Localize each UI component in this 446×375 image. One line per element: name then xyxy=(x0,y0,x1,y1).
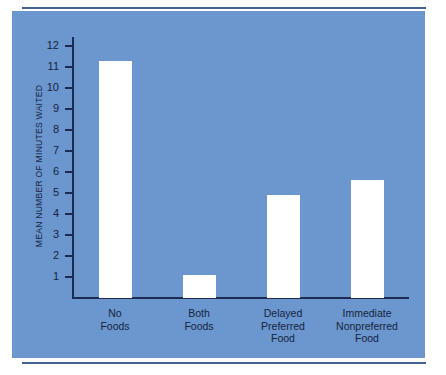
x-tick-label: Immediate Nonpreferred Food xyxy=(312,307,422,345)
y-tick-label: 12 xyxy=(29,40,59,51)
y-tick-label: 5 xyxy=(29,187,59,198)
top-rule xyxy=(22,7,426,9)
y-tick xyxy=(65,45,74,47)
y-tick-label: 3 xyxy=(29,229,59,240)
y-tick-label: 9 xyxy=(29,103,59,114)
chart-plate: MEAN NUMBER OF MINUTES WAITED 1211109876… xyxy=(12,11,425,358)
y-tick-label: 6 xyxy=(29,166,59,177)
y-tick xyxy=(65,276,74,278)
bar xyxy=(267,195,300,298)
y-tick xyxy=(65,234,74,236)
y-tick xyxy=(65,66,74,68)
bottom-rule xyxy=(22,362,426,364)
y-tick-label: 7 xyxy=(29,145,59,156)
y-tick xyxy=(65,87,74,89)
y-tick-label: 10 xyxy=(29,82,59,93)
bar xyxy=(183,275,216,298)
bar xyxy=(99,61,132,298)
y-tick-label: 8 xyxy=(29,124,59,135)
figure: MEAN NUMBER OF MINUTES WAITED 1211109876… xyxy=(0,0,446,375)
bar xyxy=(351,180,384,298)
y-tick xyxy=(65,129,74,131)
y-tick-label: 1 xyxy=(29,271,59,282)
plot-area: MEAN NUMBER OF MINUTES WAITED 1211109876… xyxy=(12,11,425,358)
y-tick-label: 11 xyxy=(29,61,59,72)
y-tick xyxy=(65,192,74,194)
y-tick xyxy=(65,213,74,215)
y-tick xyxy=(65,108,74,110)
y-tick xyxy=(65,150,74,152)
y-tick-label: 2 xyxy=(29,250,59,261)
y-axis-line xyxy=(72,37,74,299)
y-tick xyxy=(65,171,74,173)
y-tick xyxy=(65,255,74,257)
y-tick-label: 4 xyxy=(29,208,59,219)
